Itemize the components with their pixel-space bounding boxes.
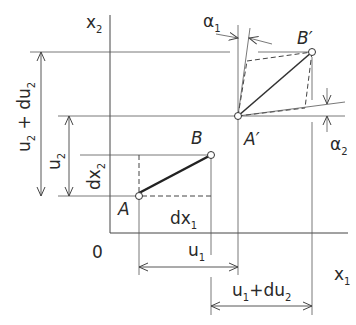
segment-ApBp: [238, 52, 312, 116]
segment-AB: [139, 155, 211, 193]
label-dx1: dx1: [170, 208, 197, 231]
label-alpha1: α1: [203, 11, 221, 34]
label-u2-du2: u2 + du2: [14, 82, 37, 152]
origin-label: 0: [92, 242, 103, 262]
x1-axis-label: x1: [334, 264, 350, 287]
label-A: A: [117, 199, 130, 219]
deformed-right: [305, 52, 312, 108]
point-B: [208, 152, 215, 159]
alpha1-arrow-left: [216, 34, 238, 38]
point-B-prime: [309, 49, 316, 56]
point-A-prime: [235, 113, 242, 120]
label-B: B: [191, 128, 203, 148]
alpha1-ray: [238, 28, 250, 116]
x2-axis-label: x2: [86, 12, 102, 35]
label-u1: u1: [188, 240, 205, 263]
label-alpha2: α2: [330, 134, 348, 157]
alpha1-arrow-right: [249, 38, 272, 44]
deformation-diagram: x2 x1 0 A B A′ B′ α1 α2 u2 + du2 u2 dx2 …: [0, 0, 356, 325]
label-u1-du2: u1+du2: [232, 280, 291, 303]
alpha2-ray: [238, 102, 345, 116]
point-A: [136, 193, 143, 200]
label-A-prime: A′: [243, 129, 260, 149]
label-u2: u2: [44, 153, 67, 170]
label-dx2: dx2: [84, 163, 107, 190]
label-B-prime: B′: [297, 28, 313, 48]
